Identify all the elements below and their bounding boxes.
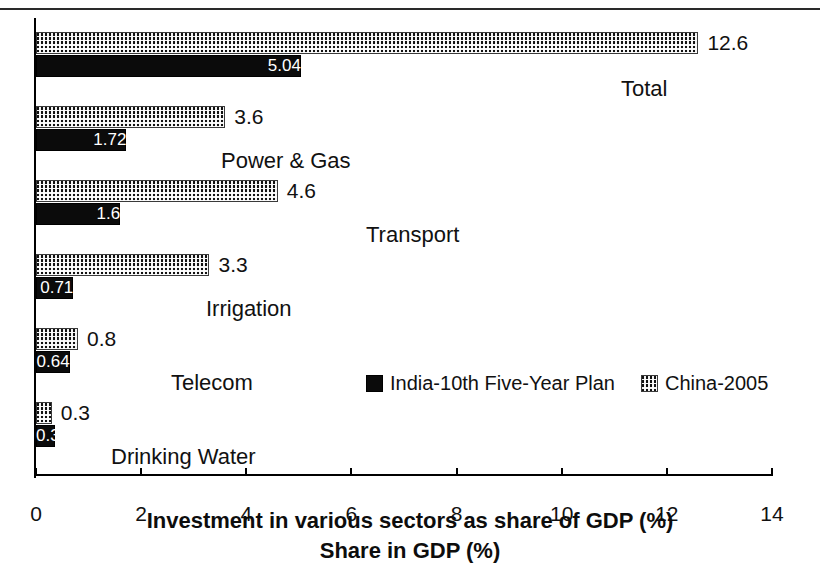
bar-value-label-china: 12.6 <box>698 32 748 54</box>
bar-value-label-india: 0.71 <box>36 277 80 299</box>
chart-legend: India-10th Five-Year Plan China-2005 <box>366 372 768 395</box>
value-axis-line <box>36 474 772 476</box>
top-rule-divider <box>0 8 820 10</box>
category-label: Drinking Water <box>111 444 256 470</box>
legend-label-india: India-10th Five-Year Plan <box>390 372 615 395</box>
checkered-swatch-icon <box>641 375 658 392</box>
bar-china[interactable] <box>36 402 52 424</box>
bar-china[interactable] <box>36 254 209 276</box>
legend-label-china: China-2005 <box>665 372 768 395</box>
bar-value-label-china: 0.8 <box>78 328 116 350</box>
axis-tick <box>666 468 668 476</box>
bar-value-label-india: 0.64 <box>36 351 77 373</box>
x-axis-title-primary: Investment in various sectors as share o… <box>0 508 820 534</box>
category-label: Telecom <box>171 370 253 396</box>
bar-value-label-china: 3.3 <box>209 254 247 276</box>
bar-value-label-china: 0.3 <box>52 402 90 424</box>
axis-tick <box>561 468 563 476</box>
bar-value-label-china: 3.6 <box>225 106 263 128</box>
category-label: Total <box>621 76 667 102</box>
bar-china[interactable] <box>36 32 698 54</box>
bar-value-label-india: 0.37 <box>36 425 73 447</box>
axis-tick <box>350 468 352 476</box>
axis-tick <box>35 468 37 476</box>
bar-china[interactable] <box>36 328 78 350</box>
bar-china[interactable] <box>36 106 225 128</box>
solid-black-swatch-icon <box>366 375 383 392</box>
bar-value-label-china: 4.6 <box>278 180 316 202</box>
bar-chart: 02468101214 12.65.04Total3.61.72Power & … <box>0 0 820 586</box>
bar-value-label-india: 5.04 <box>36 55 308 77</box>
category-label: Transport <box>366 222 459 248</box>
legend-item-china: China-2005 <box>641 372 768 395</box>
bar-value-label-india: 1.6 <box>36 203 127 225</box>
category-label: Power & Gas <box>221 148 351 174</box>
x-axis-title-secondary: Share in GDP (%) <box>0 538 820 564</box>
category-label: Irrigation <box>206 296 292 322</box>
plot-area: 02468101214 12.65.04Total3.61.72Power & … <box>36 18 772 476</box>
axis-tick <box>771 468 773 476</box>
axis-tick <box>456 468 458 476</box>
legend-item-india: India-10th Five-Year Plan <box>366 372 615 395</box>
bar-value-label-india: 1.72 <box>36 129 133 151</box>
bar-china[interactable] <box>36 180 278 202</box>
